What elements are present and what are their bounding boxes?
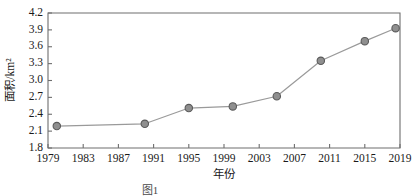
chart-background <box>0 0 415 196</box>
y-tick-label: 3.0 <box>29 73 44 85</box>
data-point-marker <box>317 57 324 64</box>
line-chart: 1.82.12.42.73.03.33.63.94.2 197919831987… <box>0 0 415 196</box>
data-point-marker <box>229 103 236 110</box>
x-tick-label: 2015 <box>353 152 376 164</box>
x-tick-label: 1979 <box>37 152 60 164</box>
y-tick-label: 2.7 <box>29 90 44 102</box>
x-tick-label: 1991 <box>142 152 165 164</box>
y-axis-title: 面积/km² <box>4 58 16 102</box>
y-tick-label: 3.9 <box>29 23 44 35</box>
y-tick-label: 4.2 <box>29 6 44 18</box>
data-point-marker <box>185 104 192 111</box>
y-tick-label: 3.3 <box>29 56 44 68</box>
data-point-marker <box>141 120 148 127</box>
y-tick-label: 3.6 <box>29 39 44 51</box>
data-point-marker <box>392 24 399 31</box>
figure-caption: 图1 <box>142 184 159 196</box>
x-tick-label: 1999 <box>213 152 236 164</box>
data-point-marker <box>53 122 60 129</box>
y-tick-label: 2.1 <box>29 124 44 136</box>
x-axis-title: 年份 <box>213 167 236 180</box>
x-tick-label: 2019 <box>389 152 412 164</box>
x-tick-label: 1983 <box>72 152 95 164</box>
figure-container: 1.82.12.42.73.03.33.63.94.2 197919831987… <box>0 0 415 196</box>
y-tick-label: 2.4 <box>29 107 44 119</box>
data-point-marker <box>361 37 368 44</box>
y-tick-label: 1.8 <box>29 141 44 153</box>
x-tick-label: 2003 <box>248 152 271 164</box>
x-tick-label: 2011 <box>318 152 341 164</box>
data-point-marker <box>273 93 280 100</box>
x-tick-label: 2007 <box>283 152 306 164</box>
x-tick-label: 1987 <box>107 152 130 164</box>
x-tick-label: 1995 <box>177 152 200 164</box>
